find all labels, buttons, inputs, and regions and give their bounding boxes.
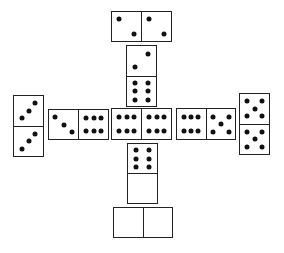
domino-tile-lower-6-0[interactable]: [127, 143, 158, 204]
pip-icon: [124, 115, 129, 120]
pip-icon: [124, 128, 129, 133]
pip-icon: [245, 144, 250, 149]
pip-icon: [20, 116, 25, 121]
pip-icon: [32, 101, 37, 106]
pip-icon: [117, 128, 122, 133]
pip-icon: [131, 31, 136, 36]
pip-icon: [196, 115, 201, 120]
pip-icon: [182, 115, 187, 120]
domino-half-0: [143, 208, 173, 237]
domino-half-2: [112, 12, 141, 41]
pip-icon: [84, 128, 89, 133]
domino-tile-upper-2-6[interactable]: [126, 45, 157, 107]
pip-icon: [131, 115, 136, 120]
pip-icon: [226, 114, 231, 119]
pip-icon: [145, 52, 150, 57]
pip-icon: [131, 128, 136, 133]
pip-icon: [259, 129, 264, 134]
domino-tile-top-2-2[interactable]: [111, 11, 172, 42]
pip-icon: [91, 128, 96, 133]
pip-icon: [133, 65, 138, 70]
pip-icon: [61, 122, 66, 127]
domino-tile-right-6-5[interactable]: [176, 108, 236, 140]
pip-icon: [91, 116, 96, 121]
domino-half-3: [14, 96, 43, 126]
pip-icon: [133, 97, 138, 102]
pip-icon: [145, 97, 150, 102]
pip-icon: [133, 89, 138, 94]
pip-icon: [210, 114, 215, 119]
pip-icon: [245, 114, 250, 119]
pip-icon: [189, 115, 194, 120]
pip-icon: [134, 164, 139, 169]
pip-icon: [98, 116, 103, 121]
domino-tile-left-3-6[interactable]: [48, 109, 109, 140]
pip-icon: [69, 129, 74, 134]
pip-icon: [145, 89, 150, 94]
pip-icon: [161, 128, 166, 133]
pip-icon: [259, 99, 264, 104]
pip-icon: [259, 114, 264, 119]
pip-icon: [154, 115, 159, 120]
pip-icon: [84, 116, 89, 121]
domino-half-0: [114, 208, 143, 237]
pip-icon: [146, 148, 151, 153]
domino-half-6: [141, 109, 171, 139]
pip-icon: [182, 128, 187, 133]
pip-icon: [245, 129, 250, 134]
pip-icon: [161, 31, 166, 36]
pip-icon: [189, 128, 194, 133]
domino-tile-bottom-0-0[interactable]: [113, 207, 173, 238]
pip-icon: [117, 17, 122, 22]
pip-icon: [145, 80, 150, 85]
pip-icon: [98, 128, 103, 133]
domino-half-0: [128, 173, 157, 203]
domino-tile-left-3-3[interactable]: [13, 95, 44, 157]
pip-icon: [147, 128, 152, 133]
pip-icon: [161, 115, 166, 120]
domino-half-3: [14, 126, 43, 157]
pip-icon: [32, 131, 37, 136]
pip-icon: [134, 148, 139, 153]
domino-half-6: [112, 109, 141, 139]
pip-icon: [53, 115, 58, 120]
domino-tile-right-5-5[interactable]: [239, 93, 270, 155]
pip-icon: [117, 115, 122, 120]
pip-icon: [26, 139, 31, 144]
pip-icon: [20, 146, 25, 151]
domino-half-6: [177, 109, 206, 139]
domino-half-5: [240, 94, 269, 124]
domino-half-6: [78, 110, 108, 139]
pip-icon: [226, 129, 231, 134]
domino-half-5: [206, 109, 236, 139]
pip-icon: [133, 80, 138, 85]
pip-icon: [210, 129, 215, 134]
domino-tile-center-6-6[interactable]: [111, 108, 172, 140]
pip-icon: [134, 156, 139, 161]
domino-half-2: [127, 46, 156, 76]
domino-half-6: [127, 76, 156, 107]
domino-half-5: [240, 124, 269, 155]
pip-icon: [26, 108, 31, 113]
pip-icon: [245, 99, 250, 104]
pip-icon: [146, 156, 151, 161]
pip-icon: [147, 17, 152, 22]
pip-icon: [252, 137, 257, 142]
domino-half-6: [128, 144, 157, 173]
domino-half-2: [141, 12, 171, 41]
pip-icon: [252, 106, 257, 111]
domino-half-3: [49, 110, 78, 139]
pip-icon: [147, 115, 152, 120]
pip-icon: [218, 122, 223, 127]
pip-icon: [196, 128, 201, 133]
pip-icon: [259, 144, 264, 149]
pip-icon: [154, 128, 159, 133]
pip-icon: [146, 164, 151, 169]
